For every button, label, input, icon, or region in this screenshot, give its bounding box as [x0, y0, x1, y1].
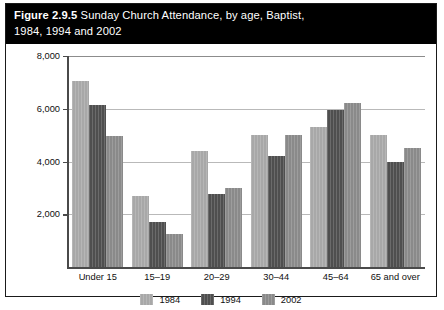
x-tick-label: 30–44	[247, 272, 307, 282]
x-tick-label: 15–19	[128, 272, 188, 282]
bar	[404, 148, 421, 267]
x-tick-label: 20–29	[187, 272, 247, 282]
bar-group	[306, 56, 366, 267]
bar	[387, 162, 404, 268]
legend-item: 2002	[262, 294, 302, 305]
bar	[344, 103, 361, 267]
bar	[149, 222, 166, 267]
legend: 198419942002	[6, 294, 436, 305]
bar	[285, 135, 302, 267]
legend-label: 2002	[281, 295, 302, 305]
figure-frame: Figure 2.9.5 Sunday Church Attendance, b…	[5, 3, 437, 297]
bar	[208, 194, 225, 267]
bar-group	[247, 56, 307, 267]
y-tick-label-4000: 4,000	[37, 157, 60, 167]
bar	[191, 151, 208, 267]
bar	[310, 127, 327, 267]
title-band: Figure 2.9.5 Sunday Church Attendance, b…	[6, 4, 436, 44]
y-tick-label-8000: 8,000	[37, 51, 60, 61]
y-tick-label-6000: 6,000	[37, 104, 60, 114]
bar-groups	[68, 56, 425, 267]
bar	[370, 135, 387, 267]
bar-group	[68, 56, 128, 267]
figure-title-rest: Sunday Church Attendance, by age, Baptis…	[77, 9, 304, 21]
bar-group	[187, 56, 247, 267]
figure-number: Figure 2.9.5	[14, 9, 77, 21]
figure-container: Figure 2.9.5 Sunday Church Attendance, b…	[0, 0, 444, 310]
x-tick-label: Under 15	[68, 272, 128, 282]
legend-swatch	[201, 294, 214, 305]
legend-item: 1994	[201, 294, 241, 305]
bar-group	[366, 56, 426, 267]
legend-item: 1984	[140, 294, 180, 305]
legend-label: 1984	[159, 295, 180, 305]
plot-wrapper: 8,000 6,000 4,000 2,000 Under 1515–1920–…	[6, 44, 436, 296]
bar	[132, 196, 149, 267]
x-tick-label: 45–64	[306, 272, 366, 282]
bar-group	[128, 56, 188, 267]
bar	[166, 234, 183, 267]
bar	[268, 156, 285, 267]
x-axis-line	[67, 267, 425, 269]
plot-area	[68, 56, 425, 267]
figure-title: Figure 2.9.5 Sunday Church Attendance, b…	[14, 8, 428, 39]
bar	[327, 110, 344, 267]
legend-swatch	[262, 294, 275, 305]
bar	[251, 135, 268, 267]
bar	[106, 136, 123, 267]
x-axis-labels: Under 1515–1920–2930–4445–6465 and over	[68, 272, 425, 282]
bar	[72, 81, 89, 267]
bar	[89, 105, 106, 267]
bar	[225, 188, 242, 267]
figure-title-line2: 1984, 1994 and 2002	[14, 25, 122, 37]
x-tick-label: 65 and over	[366, 272, 426, 282]
y-tick-label-2000: 2,000	[37, 209, 60, 219]
y-axis-labels: 8,000 6,000 4,000 2,000	[16, 56, 60, 267]
legend-label: 1994	[220, 295, 241, 305]
legend-swatch	[140, 294, 153, 305]
